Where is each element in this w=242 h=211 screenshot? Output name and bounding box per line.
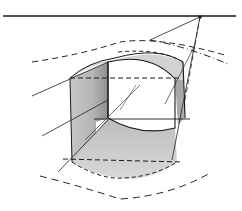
right-strip (175, 79, 184, 125)
inner-opening (108, 59, 175, 131)
construction-line (150, 17, 200, 40)
construction-line-dashed (185, 17, 200, 100)
perspective-sketch (0, 0, 242, 211)
